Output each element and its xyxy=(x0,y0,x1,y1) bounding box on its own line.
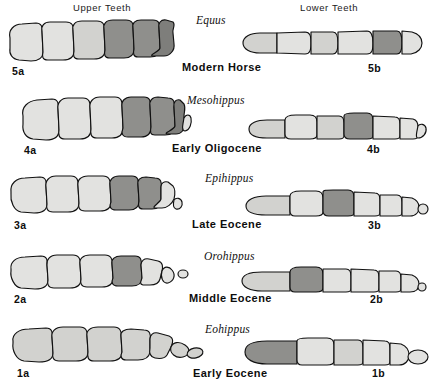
genus-name-mesohippus: Mesohippus xyxy=(187,94,245,106)
lower-tooth-arch-mesohippus xyxy=(247,113,427,141)
lower-tooth-arch-eohippus xyxy=(243,338,428,366)
epoch-label-early-oligocene: Early Oligocene xyxy=(172,142,262,154)
evolution-row-mesohippus: 4a 4b Mesohippus Early Oligocene xyxy=(0,88,433,166)
column-header-lower-teeth: Lower Teeth xyxy=(300,2,358,13)
lower-id-label-1b: 1b xyxy=(372,367,385,379)
epoch-label-modern-horse: Modern Horse xyxy=(182,61,261,73)
upper-id-label-3a: 3a xyxy=(14,219,26,231)
genus-name-epihippus: Epihippus xyxy=(205,172,253,184)
evolution-row-orohippus: 2a 2b Orohippus Middle Eocene xyxy=(0,250,433,322)
evolution-row-eohippus: 1a 1b Eohippus Early Eocene xyxy=(0,322,433,389)
upper-id-label-5a: 5a xyxy=(12,65,24,77)
upper-tooth-arch-orohippus xyxy=(8,253,188,293)
upper-tooth-arch-equus xyxy=(6,18,178,66)
evolution-row-equus: 5a 5b Equus Modern Horse xyxy=(0,14,433,86)
epoch-label-early-eocene: Early Eocene xyxy=(193,367,268,379)
tooth-evolution-figure: Upper Teeth Lower Teeth 5a xyxy=(0,0,433,389)
upper-tooth-arch-eohippus xyxy=(10,326,200,366)
epoch-label-middle-eocene: Middle Eocene xyxy=(189,292,272,304)
genus-name-equus: Equus xyxy=(196,14,226,26)
lower-id-label-3b: 3b xyxy=(368,219,381,231)
upper-id-label-1a: 1a xyxy=(17,367,29,379)
upper-tooth-arch-epihippus xyxy=(8,174,183,218)
lower-id-label-2b: 2b xyxy=(370,293,383,305)
lower-id-label-5b: 5b xyxy=(368,62,381,74)
lower-tooth-arch-epihippus xyxy=(244,190,426,218)
upper-id-label-4a: 4a xyxy=(24,144,36,156)
upper-tooth-arch-mesohippus xyxy=(20,94,190,144)
genus-name-eohippus: Eohippus xyxy=(205,323,250,335)
genus-name-orohippus: Orohippus xyxy=(204,250,255,262)
epoch-label-late-eocene: Late Eocene xyxy=(192,218,262,230)
evolution-row-epihippus: 3a 3b Epihippus Late Eocene xyxy=(0,170,433,246)
lower-tooth-arch-orohippus xyxy=(240,266,426,294)
upper-id-label-2a: 2a xyxy=(14,293,26,305)
lower-id-label-4b: 4b xyxy=(367,143,380,155)
column-header-upper-teeth: Upper Teeth xyxy=(73,2,131,13)
lower-tooth-arch-equus xyxy=(241,28,423,58)
